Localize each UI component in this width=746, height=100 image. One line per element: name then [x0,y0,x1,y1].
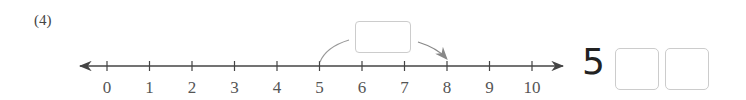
answer-prefix: 5 [582,44,605,80]
tick-label-4: 4 [273,78,282,97]
tick-label-1: 1 [145,78,154,97]
answer-box-1[interactable] [615,48,659,90]
jump-answer-box[interactable] [355,21,411,53]
tick-label-9: 9 [485,78,494,97]
tick-label-2: 2 [188,78,197,97]
jump-arc-right [418,42,446,58]
tick-label-5: 5 [315,78,324,97]
tick-labels: 012345678910 [103,78,541,97]
jump-arc-left [320,40,349,62]
tick-label-7: 7 [400,78,409,97]
tick-label-3: 3 [230,78,239,97]
tick-label-8: 8 [443,78,452,97]
tick-label-10: 10 [524,78,541,97]
tick-label-6: 6 [358,78,367,97]
tick-label-0: 0 [103,78,112,97]
answer-box-2[interactable] [665,48,709,90]
